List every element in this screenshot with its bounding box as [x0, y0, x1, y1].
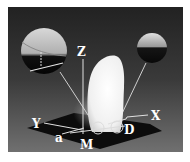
d-label: D: [124, 123, 134, 137]
z-axis-label: Z: [77, 45, 86, 59]
left-magnified-sphere: [21, 28, 67, 74]
a-label: a: [55, 131, 63, 145]
x-axis-label: X: [151, 109, 161, 123]
right-magnified-sphere: [137, 33, 167, 63]
m-label: M: [80, 138, 93, 152]
y-axis-label: Y: [31, 117, 41, 131]
droplet-figure: Z Y X a M D: [0, 0, 190, 162]
